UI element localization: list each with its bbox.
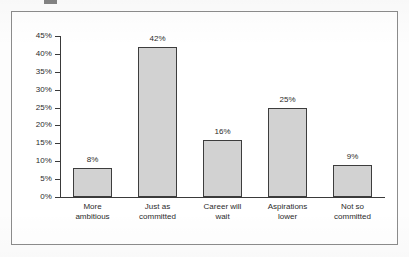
y-axis-tick-label-text: 10% [4,157,52,165]
bar-value-label: 8% [60,155,125,164]
bar [268,108,307,197]
x-axis-category-label: Just ascommitted [125,202,190,222]
y-axis-tick [55,179,60,180]
x-axis-category-label-line: lower [255,212,320,222]
y-axis-tick-label-text: 30% [4,86,52,94]
y-axis-tick-label-text: 0% [4,193,52,201]
x-axis-category-label-line: Not so [320,202,385,212]
x-axis-category-label-line: wait [190,212,255,222]
bar [138,47,177,197]
bar-value-label: 9% [320,152,385,161]
y-axis-tick-label-text: 40% [4,50,52,58]
y-axis-tick-label-text: 25% [4,104,52,112]
y-axis-tick-label-text: 20% [4,121,52,129]
y-axis-tick [55,72,60,73]
y-axis-tick-label: 30% [0,86,52,94]
y-axis-tick [55,36,60,37]
x-axis-category-label: Moreambitious [60,202,125,222]
y-axis-tick-label: 5% [0,175,52,183]
bar-value-label: 25% [255,95,320,104]
y-axis-line [60,36,61,198]
y-axis-tick [55,54,60,55]
y-axis-tick-label: 40% [0,50,52,58]
bar [203,140,242,197]
x-axis-category-label-line: Aspirations [255,202,320,212]
x-axis-category-label: Career willwait [190,202,255,222]
bar-value-label: 16% [190,127,255,136]
bar [73,168,112,197]
x-axis-category-label-line: Career will [190,202,255,212]
x-axis-category-label-line: More [60,202,125,212]
x-axis-line [60,197,385,198]
y-axis-tick-label: 0% [0,193,52,201]
y-axis-tick-label: 15% [0,139,52,147]
x-axis-category-label-line: committed [320,212,385,222]
x-axis-category-label-line: committed [125,212,190,222]
x-axis-category-label: Not socommitted [320,202,385,222]
x-axis-category-label: Aspirationslower [255,202,320,222]
y-axis-tick-label-text: 45% [4,32,52,40]
y-axis-tick [55,90,60,91]
bar [333,165,372,197]
y-axis-tick [55,108,60,109]
y-axis-tick-label: 10% [0,157,52,165]
y-axis-tick-label: 45% [0,32,52,40]
y-axis-tick-label: 35% [0,68,52,76]
y-axis-tick-label: 20% [0,121,52,129]
chart-page: 45%40%35%30%25%20%15%10%5%0% 8%42%16%25%… [0,0,409,257]
x-axis-category-label-line: ambitious [60,212,125,222]
x-axis-category-label-line: Just as [125,202,190,212]
y-axis-tick [55,143,60,144]
y-axis-tick-label-text: 15% [4,139,52,147]
y-axis-tick-label-text: 35% [4,68,52,76]
y-axis-tick-label-text: 5% [4,175,52,183]
y-axis-tick-label: 25% [0,104,52,112]
y-axis-tick [55,197,60,198]
bar-value-label: 42% [125,34,190,43]
y-axis-tick [55,125,60,126]
bar-chart: 45%40%35%30%25%20%15%10%5%0% 8%42%16%25%… [0,0,409,257]
